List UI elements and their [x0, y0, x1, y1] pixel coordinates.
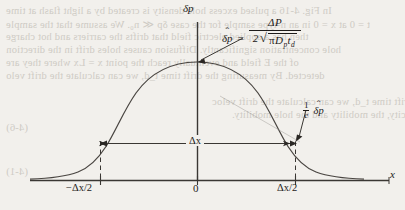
y-axis-label: δp [183, 2, 194, 14]
diffusion-profile-figure [0, 0, 405, 210]
fraction-numerator: 1 [303, 101, 310, 110]
x-axis-label: x [390, 168, 395, 180]
denominator-coefficient: 2 [253, 32, 259, 45]
hat-accent-icon: ˆ [225, 26, 229, 37]
one-over-e-leader-arrowhead [296, 135, 303, 142]
equation-denominator: 2 √ πDptd [249, 30, 301, 50]
equation-rhs: ΔP 2 √ πDptd [249, 16, 301, 49]
one-over-e-fraction: 1 e [303, 101, 310, 120]
tick-label-plus-half-delta-x: Δx/2 [277, 182, 297, 193]
scan-artifact-line [220, 96, 300, 142]
one-over-e-amplitude-label: 1 e ˆ δp [303, 101, 324, 120]
delta-p-hat-symbol: ˆ δp [314, 105, 324, 116]
tick-label-minus-half-delta-x: −Δx/2 [66, 182, 92, 193]
tick-label-origin: 0 [193, 182, 199, 194]
equation-numerator: ΔP [260, 16, 290, 30]
delta-x-width-label: Δx [186, 135, 204, 146]
hat-accent-icon: ˆ [317, 99, 321, 110]
peak-amplitude-equation: ˆ δp = ΔP 2 √ πDptd [222, 16, 301, 49]
radicand-t-subscript: d [291, 40, 295, 49]
delta-x-arrow-head-left [100, 141, 107, 147]
fraction-denominator: e [303, 110, 309, 120]
equals-sign: = [238, 32, 244, 44]
radicand: πDptd [268, 33, 297, 50]
square-root-icon: √ [260, 31, 267, 44]
equation-lhs: ˆ δp [222, 32, 233, 44]
